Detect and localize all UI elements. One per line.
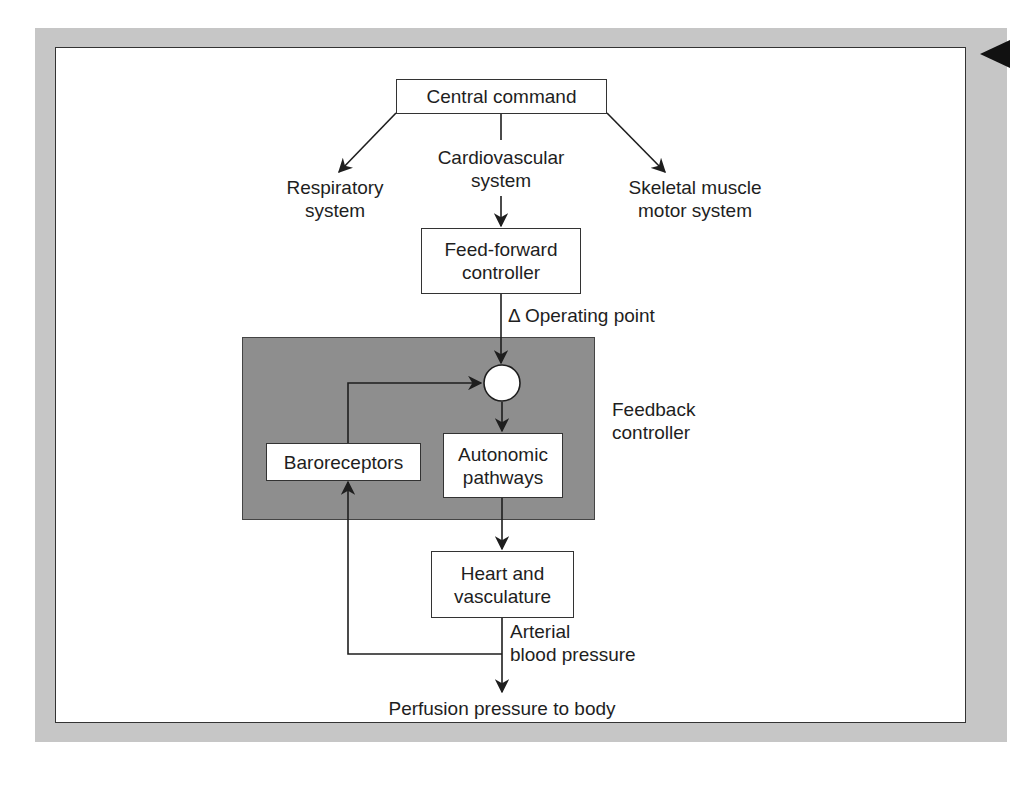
arterial-blood-pressure-label: Arterial blood pressure	[510, 620, 710, 666]
baroreceptors-box: Baroreceptors	[266, 443, 421, 481]
central-command-box: Central command	[396, 79, 607, 114]
summing-junction	[484, 365, 520, 401]
autonomic-pathways-box: Autonomic pathways	[443, 433, 563, 498]
heart-vasculature-box: Heart and vasculature	[431, 551, 574, 618]
cardiovascular-system-label: Cardiovascular system	[401, 146, 601, 192]
perfusion-pressure-label: Perfusion pressure to body	[337, 697, 667, 720]
feedback-controller-label: Feedback controller	[612, 398, 732, 444]
feed-forward-controller-box: Feed-forward controller	[421, 228, 581, 294]
operating-point-label: Δ Operating point	[508, 304, 748, 327]
skeletal-muscle-label: Skeletal muscle motor system	[595, 176, 795, 222]
